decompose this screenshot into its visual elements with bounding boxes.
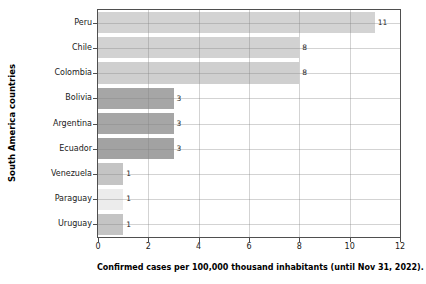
- gridline-horizontal-1: [98, 48, 400, 49]
- y-tick-label-ecuador: Ecuador: [4, 145, 92, 153]
- y-tick-label-argentina: Argentina: [4, 120, 92, 128]
- gridline-horizontal-0: [98, 23, 400, 24]
- y-tick-mark-paraguay: [93, 199, 97, 200]
- x-tick-label-2: 2: [138, 243, 158, 251]
- x-tick-label-4: 4: [189, 243, 209, 251]
- gridline-horizontal-7: [98, 199, 400, 200]
- gridline-horizontal-4: [98, 124, 400, 125]
- y-tick-label-venezuela: Venezuela: [4, 170, 92, 178]
- y-tick-mark-ecuador: [93, 149, 97, 150]
- y-tick-label-peru: Peru: [4, 19, 92, 27]
- x-tick-label-6: 6: [239, 243, 259, 251]
- gridline-horizontal-6: [98, 174, 400, 175]
- y-tick-label-bolivia: Bolivia: [4, 94, 92, 102]
- gridline-horizontal-8: [98, 224, 400, 225]
- y-tick-label-colombia: Colombia: [4, 69, 92, 77]
- bar-chart-figure: South America countries 1188333111 PeruC…: [0, 0, 426, 284]
- y-tick-mark-uruguay: [93, 224, 97, 225]
- y-tick-mark-argentina: [93, 124, 97, 125]
- x-tick-label-12: 12: [390, 243, 410, 251]
- x-axis-label: Confirmed cases per 100,000 thousand inh…: [97, 263, 401, 272]
- gridline-horizontal-3: [98, 98, 400, 99]
- gridline-horizontal-2: [98, 73, 400, 74]
- y-tick-label-chile: Chile: [4, 44, 92, 52]
- y-tick-mark-colombia: [93, 73, 97, 74]
- y-tick-label-paraguay: Paraguay: [4, 195, 92, 203]
- x-tick-label-10: 10: [340, 243, 360, 251]
- y-tick-mark-venezuela: [93, 174, 97, 175]
- y-tick-mark-chile: [93, 48, 97, 49]
- y-tick-mark-bolivia: [93, 98, 97, 99]
- x-tick-label-0: 0: [88, 243, 108, 251]
- y-tick-mark-peru: [93, 23, 97, 24]
- y-tick-label-uruguay: Uruguay: [4, 220, 92, 228]
- plot-area: 1188333111: [97, 9, 401, 238]
- gridline-horizontal-5: [98, 149, 400, 150]
- x-tick-label-8: 8: [289, 243, 309, 251]
